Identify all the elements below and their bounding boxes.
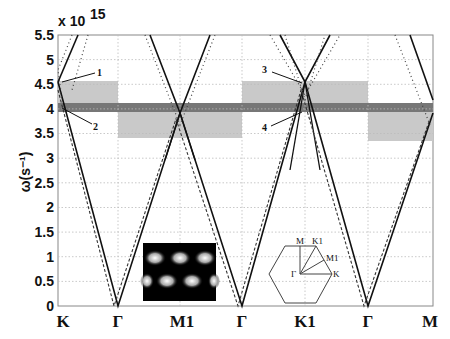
y-multiplier-exp: 15 (90, 6, 106, 22)
svg-text:2.5: 2.5 (35, 175, 55, 191)
y-axis-label: ω(s⁻¹) (17, 152, 33, 193)
band-structure-chart: 1 2 3 4 0 0.5 1 1.5 2 2.5 3 3.5 4 4.5 5 … (0, 0, 450, 339)
svg-text:Γ: Γ (237, 312, 248, 331)
svg-text:4.5: 4.5 (35, 76, 55, 92)
svg-text:M: M (422, 312, 438, 331)
svg-text:1: 1 (46, 249, 54, 265)
annotation-2: 2 (93, 121, 98, 132)
svg-text:2: 2 (46, 199, 54, 215)
svg-text:M: M (296, 236, 304, 246)
svg-text:K1: K1 (294, 312, 316, 331)
annotation-4: 4 (262, 122, 267, 133)
svg-text:M1: M1 (326, 253, 339, 263)
svg-text:K1: K1 (312, 236, 323, 246)
svg-text:Γ: Γ (363, 312, 374, 331)
svg-text:3: 3 (46, 150, 54, 166)
y-multiplier: x 10 (58, 13, 85, 29)
svg-text:1.5: 1.5 (35, 224, 55, 240)
svg-text:3.5: 3.5 (35, 125, 55, 141)
svg-text:4: 4 (46, 101, 54, 117)
svg-text:Γ: Γ (291, 269, 296, 279)
field-pattern-inset (140, 243, 220, 301)
svg-text:5: 5 (46, 52, 54, 68)
svg-text:Γ: Γ (113, 312, 124, 331)
plot-area (58, 35, 433, 306)
svg-text:K: K (333, 269, 340, 279)
svg-text:K: K (56, 312, 70, 331)
svg-text:M1: M1 (170, 312, 195, 331)
annotation-1: 1 (97, 67, 102, 78)
svg-text:0.5: 0.5 (35, 273, 55, 289)
svg-text:5.5: 5.5 (35, 27, 55, 43)
svg-text:0: 0 (46, 298, 54, 314)
x-axis: K Γ M1 Γ K1 Γ M (56, 312, 438, 331)
annotation-3: 3 (262, 64, 267, 75)
